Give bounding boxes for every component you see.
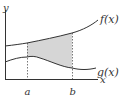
curve-f-label: f(x) bbox=[99, 13, 119, 26]
bound-a-label: a bbox=[25, 86, 31, 97]
bound-b-label: b bbox=[70, 86, 76, 97]
curve-g-label: g(x) bbox=[97, 66, 119, 79]
diagram-canvas: y x f(x) g(x) a b bbox=[0, 0, 121, 99]
area-between-curves-diagram: y x f(x) g(x) a b bbox=[0, 0, 121, 99]
y-axis-label: y bbox=[2, 2, 9, 13]
